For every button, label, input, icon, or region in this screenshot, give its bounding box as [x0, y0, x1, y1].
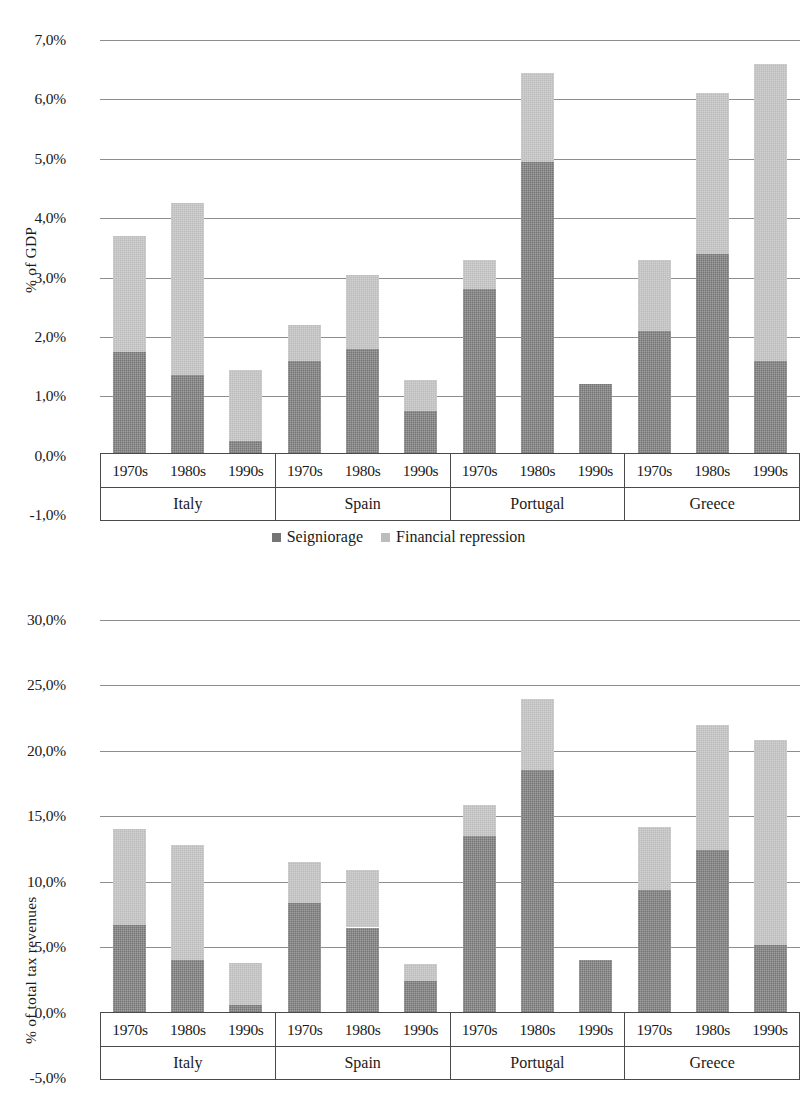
grid-line	[100, 40, 800, 41]
legend-label: Financial repression	[396, 528, 525, 546]
y-axis-ticks-gdp: -1,0%0,0%1,0%2,0%3,0%4,0%5,0%6,0%7,0%	[8, 0, 66, 560]
axis-country-group: 1970s1980s1990sPortugal	[451, 454, 626, 520]
axis-country-label: Portugal	[451, 1047, 625, 1079]
axis-decade-label: 1990s	[741, 454, 799, 487]
stacked-bar	[579, 620, 612, 1078]
y-tick-label: 6,0%	[35, 90, 67, 108]
stacked-bar	[754, 40, 787, 515]
y-tick-label: 0,0%	[35, 1004, 67, 1022]
grid-line	[100, 218, 800, 219]
bar-segment-financial-repression	[113, 829, 146, 925]
legend-swatch-seigniorage	[272, 533, 281, 542]
grid-line	[100, 99, 800, 100]
bar-segment-seigniorage	[171, 960, 204, 1012]
stacked-bar	[754, 620, 787, 1078]
axis-decade-row: 1970s1980s1990s	[276, 454, 450, 488]
chart-gdp: % of GDP -1,0%0,0%1,0%2,0%3,0%4,0%5,0%6,…	[0, 0, 808, 560]
bar-segment-financial-repression	[521, 73, 554, 162]
bar-segment-seigniorage	[754, 361, 787, 456]
axis-decade-label: 1970s	[276, 454, 334, 487]
chart-legend: SeigniorageFinancial repression	[0, 528, 808, 546]
axis-decade-row: 1970s1980s1990s	[101, 1013, 275, 1047]
axis-decade-label: 1990s	[392, 454, 450, 487]
axis-decade-label: 1970s	[451, 454, 509, 487]
stacked-bar	[579, 40, 612, 515]
stacked-bar	[113, 40, 146, 515]
bar-segment-seigniorage	[754, 945, 787, 1013]
y-tick-label: 7,0%	[35, 31, 67, 49]
legend-item: Financial repression	[381, 528, 525, 546]
axis-country-label: Italy	[101, 488, 275, 520]
axis-decade-row: 1970s1980s1990s	[451, 1013, 625, 1047]
axis-decade-label: 1980s	[334, 454, 392, 487]
bar-segment-financial-repression	[113, 236, 146, 352]
stacked-bar	[288, 620, 321, 1078]
axis-decade-label: 1970s	[101, 1013, 159, 1046]
y-tick-label: 30,0%	[27, 611, 66, 629]
bar-segment-financial-repression	[754, 64, 787, 361]
category-axis-table-tax: 1970s1980s1990sItaly1970s1980s1990sSpain…	[100, 1012, 800, 1080]
axis-decade-label: 1970s	[625, 1013, 683, 1046]
y-tick-label: 3,0%	[35, 269, 67, 287]
axis-decade-row: 1970s1980s1990s	[625, 1013, 799, 1047]
grid-line	[100, 396, 800, 397]
bar-segment-financial-repression	[754, 740, 787, 944]
stacked-bar	[229, 40, 262, 515]
axis-decade-label: 1980s	[508, 454, 566, 487]
axis-decade-label: 1980s	[334, 1013, 392, 1046]
bar-segment-financial-repression	[696, 725, 729, 851]
bar-segment-financial-repression	[638, 260, 671, 331]
chart-tax-revenues: % of total tax revenues -5,0%0,0%5,0%10,…	[0, 585, 808, 1107]
bar-segment-seigniorage	[638, 890, 671, 1013]
y-tick-label: 0,0%	[35, 447, 67, 465]
axis-country-label: Greece	[625, 488, 799, 520]
axis-decade-label: 1970s	[276, 1013, 334, 1046]
axis-decade-label: 1990s	[392, 1013, 450, 1046]
stacked-bar	[638, 620, 671, 1078]
y-tick-label: -5,0%	[30, 1069, 66, 1087]
bar-segment-seigniorage	[113, 352, 146, 456]
bar-segment-financial-repression	[288, 325, 321, 361]
stacked-bar	[346, 40, 379, 515]
bar-segment-financial-repression	[521, 699, 554, 771]
y-tick-label: 25,0%	[27, 676, 66, 694]
bar-segment-seigniorage	[404, 411, 437, 456]
y-tick-label: 1,0%	[35, 387, 67, 405]
y-tick-label: 5,0%	[35, 150, 67, 168]
bar-segment-financial-repression	[638, 827, 671, 890]
axis-country-group: 1970s1980s1990sSpain	[276, 454, 451, 520]
bar-segment-financial-repression	[171, 203, 204, 375]
bar-segment-financial-repression	[229, 370, 262, 441]
bar-segment-financial-repression	[696, 93, 729, 253]
axis-decade-label: 1980s	[508, 1013, 566, 1046]
bar-segment-financial-repression	[171, 845, 204, 960]
bar-segment-financial-repression	[346, 275, 379, 349]
legend-item: Seigniorage	[272, 528, 363, 546]
bar-segment-seigniorage	[638, 331, 671, 456]
bar-segment-seigniorage	[521, 162, 554, 456]
bar-segment-financial-repression	[288, 862, 321, 903]
grid-line	[100, 620, 800, 621]
y-tick-label: 15,0%	[27, 807, 66, 825]
bar-segment-financial-repression	[229, 963, 262, 1005]
axis-decade-label: 1990s	[217, 454, 275, 487]
stacked-bar	[113, 620, 146, 1078]
axis-decade-row: 1970s1980s1990s	[625, 454, 799, 488]
stacked-bar	[346, 620, 379, 1078]
y-tick-label: -1,0%	[30, 506, 66, 524]
axis-decade-row: 1970s1980s1990s	[101, 454, 275, 488]
axis-decade-label: 1990s	[217, 1013, 275, 1046]
stacked-bar	[463, 40, 496, 515]
grid-line	[100, 278, 800, 279]
axis-decade-label: 1980s	[159, 454, 217, 487]
legend-swatch-financial_repression	[381, 533, 390, 542]
axis-country-group: 1970s1980s1990sSpain	[276, 1013, 451, 1079]
stacked-bar	[696, 40, 729, 515]
axis-country-label: Spain	[276, 1047, 450, 1079]
stacked-bar	[696, 620, 729, 1078]
bar-segment-financial-repression	[463, 805, 496, 836]
grid-line	[100, 816, 800, 817]
axis-country-label: Portugal	[451, 488, 625, 520]
plot-area-tax	[100, 620, 800, 1078]
grid-line	[100, 882, 800, 883]
